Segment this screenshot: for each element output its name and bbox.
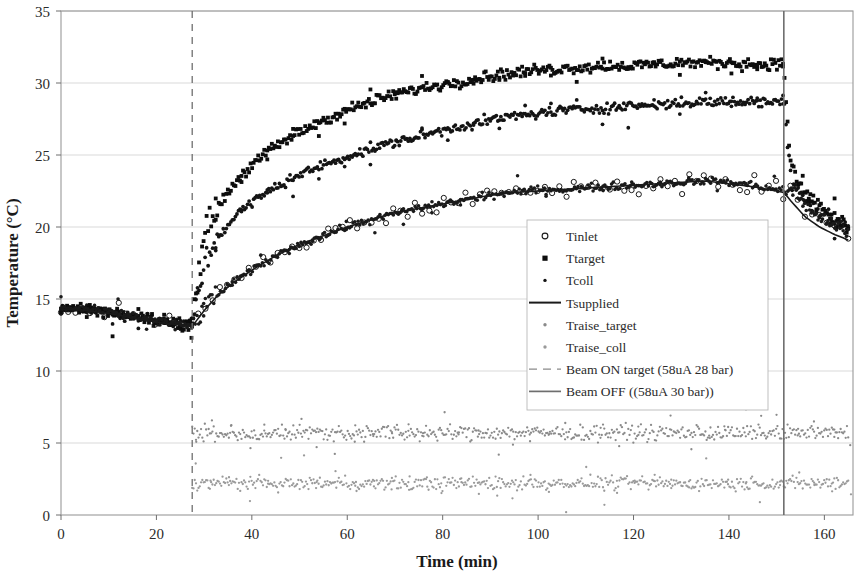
data-point bbox=[711, 487, 713, 489]
data-point-outlier bbox=[779, 484, 781, 486]
data-point bbox=[764, 434, 766, 436]
data-point bbox=[532, 486, 534, 488]
data-point bbox=[290, 138, 294, 142]
data-point bbox=[458, 431, 460, 433]
data-point bbox=[432, 486, 434, 488]
data-point bbox=[349, 435, 351, 437]
data-point-outlier bbox=[730, 72, 734, 76]
data-point bbox=[415, 434, 417, 436]
data-point bbox=[570, 485, 572, 487]
data-point bbox=[436, 478, 438, 480]
data-point bbox=[479, 430, 481, 432]
data-point bbox=[326, 116, 330, 120]
data-point bbox=[402, 433, 404, 435]
data-point bbox=[382, 480, 384, 482]
data-point bbox=[809, 486, 811, 488]
data-point bbox=[613, 430, 615, 432]
data-point bbox=[577, 479, 579, 481]
data-point bbox=[421, 485, 423, 487]
data-point bbox=[773, 178, 778, 183]
data-point bbox=[383, 489, 385, 491]
data-point bbox=[285, 429, 287, 431]
data-point bbox=[791, 193, 795, 197]
data-point bbox=[672, 101, 676, 105]
data-point bbox=[266, 435, 268, 437]
data-point bbox=[194, 479, 196, 481]
data-point bbox=[561, 482, 563, 484]
data-point bbox=[387, 425, 389, 427]
data-point bbox=[209, 225, 213, 229]
data-point bbox=[803, 480, 805, 482]
data-point bbox=[224, 227, 228, 231]
data-point bbox=[261, 481, 263, 483]
data-point-outlier bbox=[136, 307, 140, 311]
data-point bbox=[689, 479, 691, 481]
data-point bbox=[262, 435, 264, 437]
data-point bbox=[665, 427, 667, 429]
data-point bbox=[420, 211, 425, 216]
data-point bbox=[836, 431, 838, 433]
data-point-outlier bbox=[369, 88, 373, 92]
data-point bbox=[639, 431, 641, 433]
data-point bbox=[646, 441, 648, 443]
data-point bbox=[642, 434, 644, 436]
data-point bbox=[684, 481, 686, 483]
data-point bbox=[252, 437, 254, 439]
data-point bbox=[661, 428, 663, 430]
data-point bbox=[688, 429, 690, 431]
data-point bbox=[712, 434, 714, 436]
data-point bbox=[763, 97, 767, 101]
data-point bbox=[536, 184, 540, 188]
data-point bbox=[282, 434, 284, 436]
data-point bbox=[229, 480, 231, 482]
data-point bbox=[435, 83, 439, 87]
data-point bbox=[847, 480, 849, 482]
data-point bbox=[453, 123, 457, 127]
data-point bbox=[770, 433, 772, 435]
data-point bbox=[486, 432, 488, 434]
data-point bbox=[681, 485, 683, 487]
data-point bbox=[195, 439, 197, 441]
data-point bbox=[488, 437, 490, 439]
data-point bbox=[722, 435, 724, 437]
data-point bbox=[640, 479, 642, 481]
data-point bbox=[364, 436, 366, 438]
data-point bbox=[273, 481, 275, 483]
data-point bbox=[592, 111, 596, 115]
data-point bbox=[449, 423, 451, 425]
data-point bbox=[228, 437, 230, 439]
data-point bbox=[211, 430, 213, 432]
data-point bbox=[448, 430, 450, 432]
data-point bbox=[716, 67, 720, 71]
data-point bbox=[340, 429, 342, 431]
data-point bbox=[491, 432, 493, 434]
data-point bbox=[360, 436, 362, 438]
data-point bbox=[334, 481, 336, 483]
data-point bbox=[655, 439, 657, 441]
data-point bbox=[616, 480, 618, 482]
data-point bbox=[750, 425, 752, 427]
data-point bbox=[548, 434, 550, 436]
data-point bbox=[462, 482, 464, 484]
data-point bbox=[378, 146, 382, 150]
data-point bbox=[278, 145, 282, 149]
data-point bbox=[435, 436, 437, 438]
data-point bbox=[488, 477, 490, 479]
data-point bbox=[661, 480, 663, 482]
x-axis-tick-label: 60 bbox=[340, 526, 355, 542]
data-point bbox=[737, 435, 739, 437]
data-point bbox=[511, 428, 513, 430]
data-point bbox=[274, 429, 276, 431]
data-point bbox=[335, 487, 337, 489]
data-point-outlier bbox=[214, 197, 218, 201]
data-point bbox=[324, 481, 326, 483]
data-point bbox=[348, 485, 350, 487]
data-point bbox=[416, 428, 418, 430]
data-point bbox=[778, 486, 780, 488]
data-point bbox=[706, 479, 708, 481]
data-point bbox=[438, 483, 440, 485]
data-point bbox=[699, 64, 703, 68]
data-point bbox=[249, 476, 251, 478]
data-point bbox=[514, 73, 518, 77]
data-point bbox=[209, 253, 213, 257]
